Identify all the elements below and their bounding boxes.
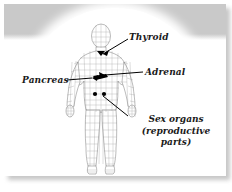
endocrine-diagram-figure: Thyroid Adrenal Pancreas Sex organs (rep…: [0, 0, 232, 192]
label-sex-organs-line-3: parts): [130, 137, 222, 149]
sex-organ-marker-right: [102, 92, 106, 96]
label-adrenal: Adrenal: [145, 67, 185, 77]
diagram-panel: Thyroid Adrenal Pancreas Sex organs (rep…: [4, 4, 226, 176]
label-sex-organs-line-1: Sex organs: [130, 114, 222, 126]
label-thyroid: Thyroid: [129, 32, 169, 42]
label-sex-organs-line-2: (reproductive: [130, 126, 222, 138]
wireframe-mesh-group: [66, 24, 136, 172]
label-sex-organs: Sex organs (reproductive parts): [130, 114, 222, 149]
label-pancreas: Pancreas: [22, 75, 69, 85]
body-wireframe-illustration: [4, 4, 226, 176]
sex-organ-marker-left: [93, 92, 97, 96]
